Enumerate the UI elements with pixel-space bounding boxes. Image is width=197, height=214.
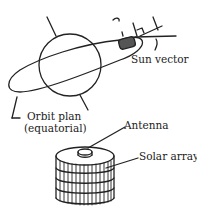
antenna-icon bbox=[78, 149, 92, 157]
antenna-leader bbox=[88, 127, 125, 148]
antenna-label: Antenna bbox=[124, 120, 169, 131]
cylindrical-satellite-icon bbox=[56, 147, 114, 205]
orbit-plan-label: Orbit plan bbox=[27, 111, 81, 122]
solar-array-label: Solar array bbox=[139, 151, 197, 162]
diagram-drawing bbox=[0, 0, 197, 214]
sun-vector-arrow bbox=[133, 17, 176, 50]
satellite-orbit-diagram: Sun vector Orbit plan (equatorial) Anten… bbox=[0, 0, 197, 214]
sun-vector-label: Sun vector bbox=[131, 54, 189, 65]
orbit-plan-sublabel: (equatorial) bbox=[24, 123, 87, 134]
earth-icon bbox=[39, 17, 101, 110]
orbit-plan-leader bbox=[12, 97, 20, 118]
